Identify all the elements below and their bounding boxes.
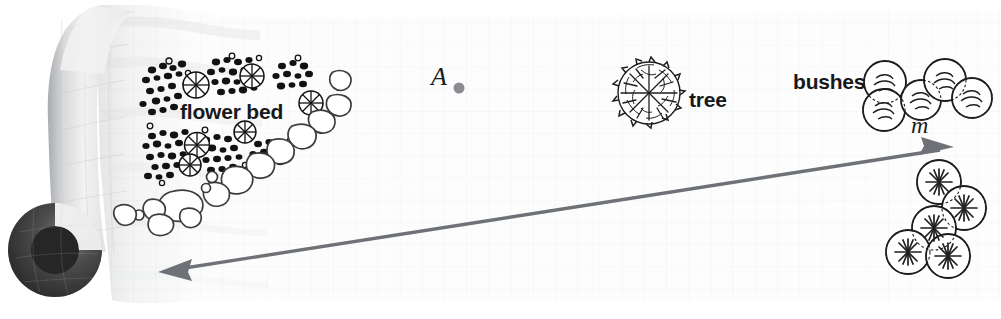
bottom-margin	[0, 303, 1001, 319]
label-flower-bed: flower bed	[180, 100, 283, 124]
paper-sheet	[96, 4, 1001, 303]
garden-plan-illustration	[0, 0, 1001, 319]
top-margin	[0, 0, 1001, 5]
label-tree: tree	[689, 88, 727, 112]
roll-curl-core	[31, 226, 79, 274]
figure-canvas: flower bed tree bushes A m	[0, 0, 1001, 319]
label-point-a: A	[431, 62, 447, 92]
label-bushes: bushes	[793, 70, 865, 94]
paper-shading	[96, 4, 1001, 303]
label-line-m: m	[911, 112, 928, 139]
point-a-dot	[454, 83, 465, 94]
